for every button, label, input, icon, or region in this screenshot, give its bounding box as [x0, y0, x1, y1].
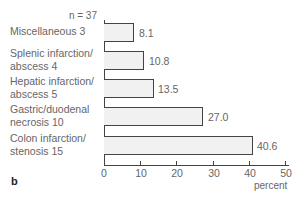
x-tick-label-50: 50: [276, 167, 296, 179]
value-label-miscellaneous: 8.1: [139, 27, 154, 39]
category-label-hepatic: Hepatic infarction/ abscess 5: [10, 75, 94, 101]
value-label-splenic: 10.8: [149, 55, 169, 67]
x-tick-50: [285, 161, 286, 165]
bar-hepatic: [104, 79, 154, 98]
x-tick-10: [140, 161, 141, 165]
x-tick-label-20: 20: [167, 167, 187, 179]
x-tick-30: [213, 161, 214, 165]
sample-size-annotation: n = 37: [69, 10, 97, 21]
x-axis-line: [104, 165, 289, 166]
category-label-miscellaneous: Miscellaneous 3: [10, 25, 85, 38]
panel-label: b: [11, 175, 18, 187]
category-label-splenic: Splenic infarction/ abscess 4: [10, 47, 93, 73]
category-label-colon: Colon infarction/ stenosis 15: [10, 132, 86, 158]
x-tick-label-10: 10: [131, 167, 151, 179]
value-label-gastric: 27.0: [208, 111, 228, 123]
x-axis-title: percent: [254, 180, 287, 191]
bar-splenic: [104, 51, 144, 70]
x-tick-label-0: 0: [94, 167, 114, 179]
bar-miscellaneous: [104, 23, 134, 42]
category-label-gastric: Gastric/duodenal necrosis 10: [10, 103, 89, 129]
x-tick-40: [249, 161, 250, 165]
x-tick-label-40: 40: [240, 167, 260, 179]
value-label-colon: 40.6: [257, 140, 277, 152]
x-tick-20: [176, 161, 177, 165]
x-tick-0: [104, 161, 105, 165]
x-tick-label-30: 30: [204, 167, 224, 179]
value-label-hepatic: 13.5: [158, 83, 178, 95]
bar-gastric: [104, 107, 203, 126]
bar-colon: [104, 136, 253, 155]
